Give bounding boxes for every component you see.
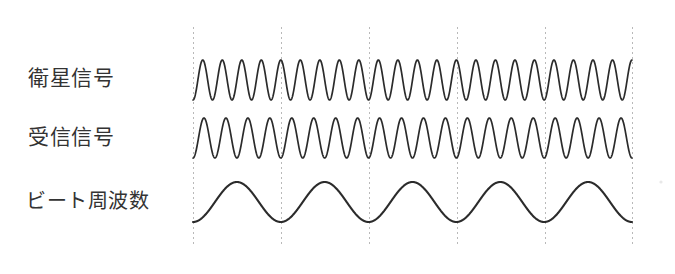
gridlines-group [194,27,633,245]
waveform-received-signal [193,118,632,158]
row-label-satellite-signal: 衛星信号 [0,68,180,89]
waveform-beat-frequency [193,182,632,222]
waveform-satellite-signal [193,60,632,100]
scan-artifact-dot [659,180,662,183]
waveforms-group [193,60,632,222]
row-label-beat-frequency: ビート周波数 [0,191,180,211]
beat-frequency-diagram: 衛星信号 受信信号 ビート周波数 [0,0,675,274]
row-label-received-signal: 受信信号 [0,127,180,148]
